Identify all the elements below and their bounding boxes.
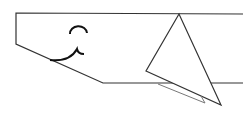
shark-fin bbox=[146, 14, 221, 105]
shark-body-outline bbox=[16, 13, 243, 83]
shark-drawing bbox=[0, 0, 243, 121]
shark-eye-icon bbox=[70, 26, 87, 34]
shark-svg bbox=[0, 0, 243, 121]
shark-mouth-icon bbox=[50, 49, 84, 60]
